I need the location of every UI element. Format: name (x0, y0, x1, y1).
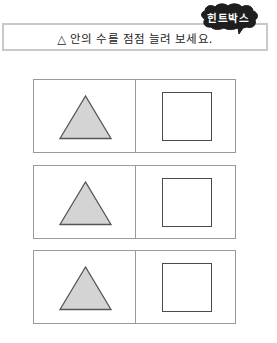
triangle-cell[interactable] (34, 251, 135, 323)
answer-cell[interactable] (136, 166, 236, 238)
answer-cell[interactable] (136, 80, 236, 152)
answer-square-box[interactable] (162, 263, 212, 312)
problem-row-1 (33, 79, 236, 153)
triangle-cell[interactable] (34, 80, 135, 152)
triangle-icon (34, 166, 135, 240)
triangle-cell[interactable] (34, 166, 135, 238)
answer-square-box[interactable] (162, 178, 212, 227)
problem-row-3 (33, 250, 236, 324)
answer-square-box[interactable] (162, 92, 212, 141)
hint-badge[interactable]: 힌트박스 (199, 3, 261, 37)
problem-row-2 (33, 165, 236, 239)
answer-cell[interactable] (136, 251, 236, 323)
triangle-icon (34, 80, 135, 154)
instruction-text: △ 안의 수를 점점 늘려 보세요. (57, 30, 212, 46)
triangle-icon (34, 251, 135, 325)
hint-badge-label: 힌트박스 (199, 10, 257, 25)
